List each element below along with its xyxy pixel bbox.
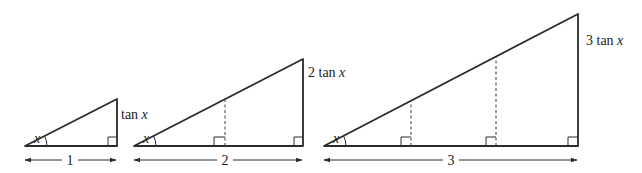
right-angle-marker xyxy=(108,137,117,146)
height-label: tan x xyxy=(121,107,149,122)
triangle-1: x tan x 1 xyxy=(25,99,149,168)
angle-label: x xyxy=(33,131,41,146)
right-angle-marker xyxy=(568,137,578,146)
triangle-2-outline xyxy=(134,59,303,146)
right-angle-marker xyxy=(214,137,225,146)
angle-arc xyxy=(45,136,47,146)
triangle-2: x 2 tan x 2 xyxy=(134,59,346,168)
base-label: 1 xyxy=(67,153,74,168)
right-angle-marker xyxy=(486,137,496,146)
angle-arc xyxy=(154,136,157,146)
height-label: 3 tan x xyxy=(586,33,624,48)
right-angle-marker xyxy=(401,137,411,146)
similar-triangles-diagram: x tan x 1 x 2 tan x 2 x 3 tan x 3 xyxy=(0,0,642,173)
triangle-3-outline xyxy=(324,14,578,146)
height-label: 2 tan x xyxy=(308,65,346,80)
angle-label: x xyxy=(332,131,340,146)
angle-label: x xyxy=(142,131,150,146)
base-label: 3 xyxy=(448,153,455,168)
base-label: 2 xyxy=(222,153,229,168)
triangle-3: x 3 tan x 3 xyxy=(324,14,624,168)
angle-arc xyxy=(344,136,347,146)
right-angle-marker xyxy=(294,137,303,146)
